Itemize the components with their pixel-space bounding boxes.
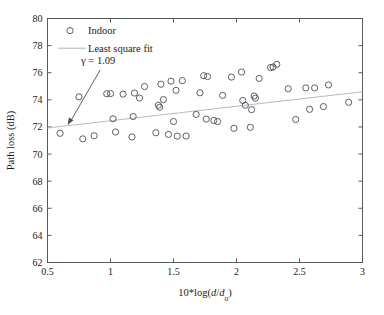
data-point bbox=[170, 118, 176, 124]
y-tick-label-6: 74 bbox=[33, 94, 43, 105]
x-tick-label-5: 3 bbox=[360, 266, 365, 277]
data-point bbox=[247, 124, 253, 130]
y-tick-label-9: 80 bbox=[33, 13, 43, 24]
data-point bbox=[153, 130, 159, 136]
data-point bbox=[197, 90, 203, 96]
y-tick-label-7: 76 bbox=[33, 67, 43, 78]
legend-marker-indoor bbox=[67, 27, 73, 33]
data-point bbox=[158, 81, 164, 87]
data-point bbox=[303, 85, 309, 91]
data-point bbox=[204, 73, 210, 79]
data-point bbox=[193, 111, 199, 117]
data-point bbox=[80, 136, 86, 142]
data-point bbox=[220, 92, 226, 98]
data-point bbox=[312, 85, 318, 91]
data-point bbox=[91, 133, 97, 139]
data-point bbox=[320, 104, 326, 110]
data-point bbox=[107, 90, 113, 96]
data-point bbox=[231, 125, 237, 131]
y-tick-label-3: 68 bbox=[33, 176, 43, 187]
y-tick-label-2: 66 bbox=[33, 203, 43, 214]
data-point bbox=[129, 134, 135, 140]
data-point bbox=[76, 94, 82, 100]
data-point bbox=[256, 75, 262, 81]
least-square-fit-line bbox=[48, 92, 363, 128]
x-axis-title: 10*log(d/do) bbox=[178, 287, 232, 303]
data-point bbox=[131, 90, 137, 96]
data-point bbox=[228, 74, 234, 80]
x-tick-label-0: 0.5 bbox=[41, 266, 54, 277]
data-point bbox=[179, 77, 185, 83]
x-tick-label-1: 1 bbox=[108, 266, 113, 277]
data-point bbox=[174, 133, 180, 139]
legend-label-fit: Least square fit bbox=[88, 43, 153, 54]
data-point bbox=[249, 106, 255, 112]
data-point bbox=[183, 133, 189, 139]
data-point bbox=[136, 95, 142, 101]
data-point bbox=[141, 83, 147, 89]
y-tick-label-5: 72 bbox=[33, 121, 43, 132]
legend-label-indoor: Indoor bbox=[88, 25, 116, 36]
data-point bbox=[285, 86, 291, 92]
data-point bbox=[240, 97, 246, 103]
data-point bbox=[238, 69, 244, 75]
data-point bbox=[215, 118, 221, 124]
chart-figure: 0.511.522.5362646668707274767880γ = 1.09… bbox=[0, 0, 384, 315]
data-point bbox=[346, 99, 352, 105]
x-tick-label-2: 1.5 bbox=[167, 266, 180, 277]
data-point bbox=[165, 131, 171, 137]
data-point bbox=[211, 117, 217, 123]
data-point bbox=[57, 130, 63, 136]
scatter-plot: 0.511.522.5362646668707274767880γ = 1.09… bbox=[0, 0, 384, 315]
data-point bbox=[252, 95, 258, 101]
data-point bbox=[160, 96, 166, 102]
y-axis-title: Path loss (dB) bbox=[5, 110, 17, 170]
data-point bbox=[173, 87, 179, 93]
y-tick-label-8: 78 bbox=[33, 40, 43, 51]
y-tick-label-1: 64 bbox=[33, 230, 43, 241]
data-point bbox=[293, 116, 299, 122]
y-tick-label-4: 70 bbox=[33, 149, 43, 160]
data-point bbox=[112, 129, 118, 135]
annotation-arrow-shaft bbox=[70, 70, 100, 122]
data-point bbox=[120, 91, 126, 97]
x-tick-label-3: 2 bbox=[234, 266, 239, 277]
data-point bbox=[306, 106, 312, 112]
y-tick-label-0: 62 bbox=[33, 257, 43, 268]
data-point bbox=[325, 82, 331, 88]
x-tick-label-4: 2.5 bbox=[293, 266, 306, 277]
data-point bbox=[157, 104, 163, 110]
gamma-annotation: γ = 1.09 bbox=[80, 55, 115, 66]
data-point bbox=[203, 116, 209, 122]
data-point bbox=[168, 78, 174, 84]
